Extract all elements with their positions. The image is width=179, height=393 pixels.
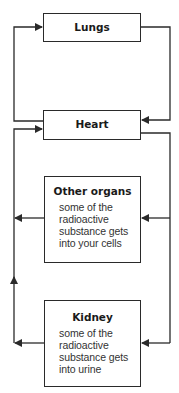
node-lungs: Lungs xyxy=(43,13,141,42)
desc-line: into urine xyxy=(59,363,140,375)
node-title: Lungs xyxy=(44,14,140,41)
node-title: Kidney xyxy=(45,311,140,323)
node-description: some of the radioactive substance gets i… xyxy=(59,201,140,249)
node-description: some of the radioactive substance gets i… xyxy=(59,327,140,375)
node-title: Other organs xyxy=(45,185,140,197)
node-heart: Heart xyxy=(43,110,141,140)
edge-lungs-to-heart xyxy=(141,27,170,120)
desc-line: some of the xyxy=(59,201,140,213)
edge-return-to-heart xyxy=(14,129,42,280)
desc-line: substance gets xyxy=(59,225,140,237)
desc-line: radioactive xyxy=(59,213,140,225)
desc-line: substance gets xyxy=(59,351,140,363)
node-kidney: Kidney some of the radioactive substance… xyxy=(44,300,141,387)
desc-line: some of the xyxy=(59,327,140,339)
node-other-organs: Other organs some of the radioactive sub… xyxy=(44,176,141,263)
desc-line: radioactive xyxy=(59,339,140,351)
desc-line: into your cells xyxy=(59,237,140,249)
edge-heart-to-lungs xyxy=(14,27,43,121)
node-title: Heart xyxy=(44,111,140,138)
